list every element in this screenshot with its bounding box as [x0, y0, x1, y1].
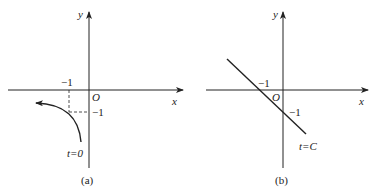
panel-caption: (b)	[275, 174, 288, 187]
panel-a: y x O −1 −1 t=0 (a)	[8, 8, 183, 187]
x-tick-label: −1	[258, 77, 270, 89]
figure: y x O −1 −1 t=0 (a) y x O −1 −1 t=C (b)	[0, 0, 372, 190]
curve-label: t=C	[299, 140, 317, 152]
y-tick-label: −1	[92, 106, 104, 118]
x-tick-label: −1	[61, 76, 73, 88]
panel-caption: (a)	[81, 174, 94, 187]
origin-label: O	[272, 91, 280, 103]
curve-arc	[36, 103, 81, 142]
y-axis-label: y	[77, 8, 83, 20]
line-curve	[227, 59, 306, 134]
panel-b: y x O −1 −1 t=C (b)	[206, 8, 368, 187]
x-axis-label: x	[171, 95, 177, 107]
origin-label: O	[92, 91, 100, 103]
x-axis-label: x	[358, 95, 364, 107]
y-axis-label: y	[272, 8, 278, 20]
y-tick-label: −1	[289, 106, 301, 118]
curve-label: t=0	[67, 147, 83, 159]
